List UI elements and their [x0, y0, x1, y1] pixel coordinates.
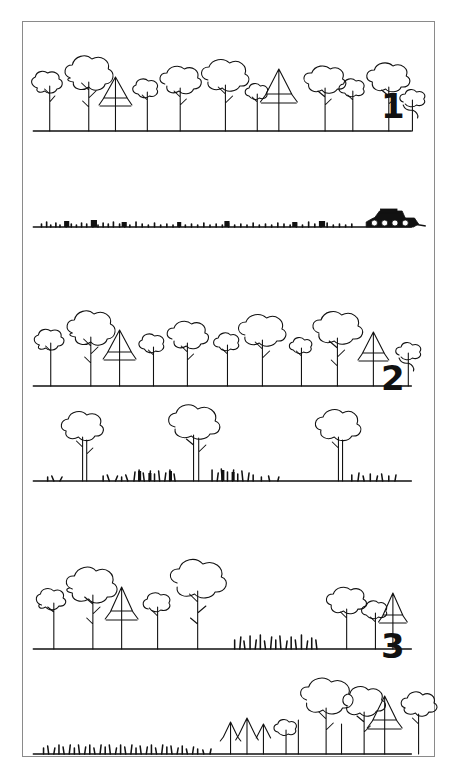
panel-2-intact-forest-row	[23, 285, 434, 395]
panel-1-cleared-ground-row	[23, 187, 434, 235]
bulldozer-icon	[366, 209, 426, 227]
panel-number-3: 3	[381, 629, 405, 663]
panel-3: 3	[23, 537, 434, 757]
panel-3-grass-and-patch-row	[23, 662, 434, 762]
figure-frame: 1	[22, 21, 435, 757]
panel-2-scattered-remnant-trees-row	[23, 407, 434, 489]
panel-1: 1	[23, 22, 434, 272]
panel-number-1: 1	[381, 89, 405, 123]
panel-2: 2	[23, 277, 434, 492]
panel-number-2: 2	[381, 361, 405, 395]
panel-3-two-forest-patches-row	[23, 545, 434, 657]
panel-1-intact-forest-row	[23, 30, 434, 140]
page-header-text	[0, 0, 457, 9]
